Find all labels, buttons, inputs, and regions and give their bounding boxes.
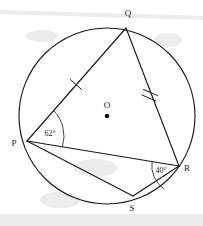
segment-qr [126,28,179,166]
centre-dot [105,114,110,119]
label-P: P [11,138,16,148]
label-O: O [104,100,111,110]
angle-label-r: 40° [155,166,166,175]
label-R: R [184,163,190,173]
angle-label-p: 62° [44,129,55,138]
geometry-figure: O Q P R S 62° 40° [0,0,203,226]
label-Q: Q [125,8,132,18]
scan-artifacts [0,10,203,226]
label-S: S [129,203,134,213]
